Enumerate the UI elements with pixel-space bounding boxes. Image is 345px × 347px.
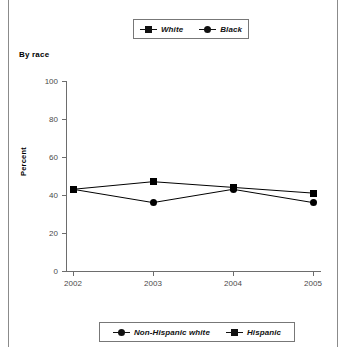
- page-rule-left: [8, 0, 9, 347]
- y-axis-title: Percent: [19, 164, 28, 176]
- data-point-white-2003: [150, 178, 157, 185]
- legend-bottom: Non-Hispanic white Hispanic: [99, 322, 295, 342]
- data-point-black-2002: [70, 186, 77, 193]
- x-tick-label: 2002: [48, 279, 98, 288]
- legend-top: White Black: [133, 19, 249, 39]
- series-lines: [66, 81, 320, 272]
- y-tick-label: 0: [18, 267, 58, 276]
- data-point-black-2005: [310, 199, 317, 206]
- data-point-white-2005: [310, 190, 317, 197]
- y-tick-label: 100: [18, 77, 58, 86]
- y-tick-label: 20: [18, 229, 58, 238]
- square-marker-icon: [140, 25, 157, 34]
- circle-marker-icon: [199, 25, 216, 34]
- legend-entry-black: Black: [199, 25, 242, 34]
- legend-entry-hispanic: Hispanic: [226, 328, 281, 337]
- series-line-white: [73, 182, 313, 193]
- x-tick-label: 2003: [128, 279, 178, 288]
- x-tick-label: 2004: [208, 279, 258, 288]
- legend-label-hispanic: Hispanic: [247, 328, 281, 337]
- data-point-black-2004: [230, 186, 237, 193]
- series-line-black: [73, 189, 313, 202]
- page-rule-right: [337, 0, 338, 347]
- x-tick-label: 2005: [288, 279, 338, 288]
- legend-label-non-hispanic-white: Non-Hispanic white: [134, 328, 210, 337]
- plot-area: 020406080100 2002200320042005: [66, 81, 320, 271]
- legend-entry-white: White: [140, 25, 183, 34]
- data-point-black-2003: [150, 199, 157, 206]
- circle-marker-icon: [113, 328, 130, 337]
- legend-entry-non-hispanic-white: Non-Hispanic white: [113, 328, 210, 337]
- y-tick-label: 60: [18, 153, 58, 162]
- panel-title: By race: [19, 50, 49, 59]
- y-tick-label: 80: [18, 115, 58, 124]
- legend-label-black: Black: [220, 25, 242, 34]
- y-tick-label: 40: [18, 191, 58, 200]
- figure-panel: White Black By race Percent 020406080100…: [0, 0, 345, 347]
- square-marker-icon: [226, 328, 243, 337]
- legend-label-white: White: [161, 25, 183, 34]
